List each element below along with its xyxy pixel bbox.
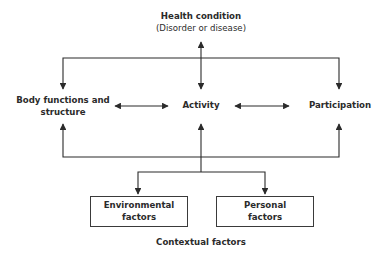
edge-context-personal — [201, 172, 265, 194]
body-functions-line2: structure — [10, 107, 116, 119]
node-personal-factors: Personal factors — [216, 196, 314, 227]
edge-health-participation — [201, 58, 339, 89]
health-condition-subtitle: (Disorder or disease) — [140, 23, 262, 35]
node-activity: Activity — [170, 100, 232, 112]
personal-line2: factors — [244, 212, 286, 224]
diagram-edges — [0, 0, 382, 253]
edge-context-body — [63, 124, 201, 157]
environmental-line2: factors — [104, 212, 175, 224]
body-functions-line1: Body functions and — [10, 95, 116, 107]
node-environmental-factors: Environmental factors — [90, 196, 188, 227]
edge-context-participation — [201, 124, 339, 157]
environmental-line1: Environmental — [104, 200, 175, 212]
node-health-condition: Health condition (Disorder or disease) — [140, 11, 262, 34]
edge-health-body — [63, 58, 201, 89]
node-contextual-factors: Contextual factors — [140, 237, 262, 249]
health-condition-title: Health condition — [140, 11, 262, 23]
personal-line1: Personal — [244, 200, 286, 212]
edge-context-environmental — [138, 172, 201, 194]
node-body-functions: Body functions and structure — [10, 95, 116, 118]
node-participation: Participation — [295, 100, 382, 112]
